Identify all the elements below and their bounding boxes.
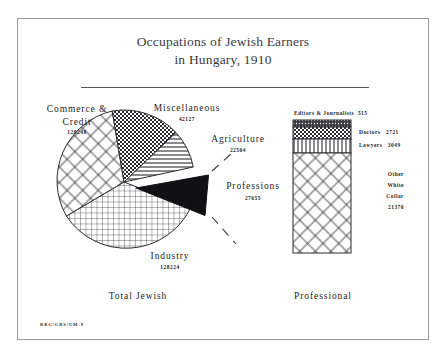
label-lawyers-text: Lawyers: [359, 142, 382, 148]
caption-professional: Professional: [263, 291, 383, 301]
label-editors-text: Editors & Journalists: [294, 110, 354, 116]
bar-segment-editors: [293, 120, 351, 127]
label-other-white-collar: Other White Collar 21370: [348, 169, 404, 213]
label-lawyers: Lawyers 3049: [359, 142, 401, 148]
label-owc-line3: Collar: [386, 193, 404, 199]
value-doctors: 2721: [386, 129, 399, 135]
label-industry: Industry: [128, 251, 212, 261]
bar-segment-doctors: [293, 127, 351, 139]
caption-total-jewish: Total Jewish: [78, 291, 198, 301]
footer-source-code: RBG/GBS/UM-9: [40, 322, 84, 327]
title-line-2: in Hungary, 1910: [18, 51, 428, 69]
label-commerce-credit: Commerce & Credit: [35, 103, 119, 129]
label-agriculture: Agriculture: [196, 134, 280, 144]
label-commerce-line1: Commerce &: [47, 104, 107, 114]
bar-segment-other-white-collar: [293, 153, 351, 253]
label-doctors: Doctors 2721: [359, 129, 399, 135]
label-professions: Professions: [211, 181, 295, 191]
bar-segment-lawyers: [293, 139, 351, 153]
value-editors: 515: [358, 110, 368, 116]
label-commerce-line2: Credit: [62, 117, 91, 127]
value-miscellaneous: 42127: [135, 116, 239, 122]
title-divider: [81, 87, 369, 88]
chart-frame: Occupations of Jewish Earners in Hungary…: [17, 18, 429, 340]
page-title: Occupations of Jewish Earners in Hungary…: [18, 33, 428, 69]
label-owc-line2: White: [387, 182, 404, 188]
label-editors-journalists: Editors & Journalists 515: [294, 110, 368, 116]
value-other-white-collar: 21370: [388, 204, 404, 210]
value-commerce-credit: 128248: [35, 129, 119, 135]
label-miscellaneous: Miscellaneous: [135, 103, 239, 113]
title-line-1: Occupations of Jewish Earners: [18, 33, 428, 51]
value-industry: 128224: [128, 264, 212, 270]
value-agriculture: 22504: [196, 147, 280, 153]
value-lawyers: 3049: [388, 142, 401, 148]
label-doctors-text: Doctors: [359, 129, 380, 135]
professional-bar-chart: [292, 119, 354, 255]
label-owc-line1: Other: [388, 171, 404, 177]
value-professions: 27655: [211, 195, 295, 201]
